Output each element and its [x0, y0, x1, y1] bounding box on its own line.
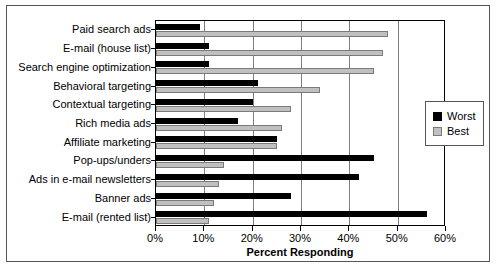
axis-tick-label: 40%	[325, 232, 371, 244]
axis-tick-label: 50%	[374, 232, 420, 244]
legend-label: Best	[447, 125, 469, 137]
bar-group	[156, 171, 444, 190]
axis-tick	[155, 226, 156, 231]
bar-best	[156, 50, 383, 56]
bar-group	[156, 190, 444, 209]
bar-group	[156, 58, 444, 77]
axis-tick	[203, 226, 204, 231]
axis-tick	[348, 226, 349, 231]
bar-best	[156, 125, 282, 131]
axis-tick-label: 30%	[277, 232, 323, 244]
bar-group	[156, 77, 444, 96]
black-square-swatch	[433, 112, 442, 121]
bar-worst	[156, 80, 258, 86]
bar-worst	[156, 61, 209, 67]
bar-group	[156, 40, 444, 59]
category-label: Paid search ads	[9, 23, 151, 35]
category-label: Search engine optimization	[9, 61, 151, 73]
axis-tick-label: 10%	[180, 232, 226, 244]
bar-group	[156, 133, 444, 152]
legend-label: Worst	[447, 110, 476, 122]
category-label: Banner ads	[9, 192, 151, 204]
bar-best	[156, 181, 219, 187]
bar-worst	[156, 99, 253, 105]
bar-worst	[156, 174, 359, 180]
category-label: E-mail (rented list)	[9, 211, 151, 223]
axis-tick-label: 0%	[132, 232, 178, 244]
category-label: Contextual targeting	[9, 98, 151, 110]
bar-best	[156, 87, 320, 93]
bar-worst	[156, 43, 209, 49]
bar-group	[156, 96, 444, 115]
axis-tick	[300, 226, 301, 231]
plot-area	[155, 20, 445, 226]
chart-container: Paid search adsE-mail (house list)Search…	[6, 5, 490, 262]
chart-legend: WorstBest	[425, 101, 484, 146]
bar-best	[156, 162, 224, 168]
bar-worst	[156, 211, 427, 217]
bar-group	[156, 208, 444, 227]
bar-rows	[156, 21, 444, 225]
axis-tick-label: 20%	[229, 232, 275, 244]
legend-item: Best	[433, 125, 476, 137]
bar-best	[156, 218, 209, 224]
axis-title: Percent Responding	[155, 246, 445, 258]
bar-group	[156, 152, 444, 171]
bar-best	[156, 68, 374, 74]
axis-tick	[445, 226, 446, 231]
gray-square-swatch	[433, 127, 442, 136]
bar-worst	[156, 155, 374, 161]
bar-worst	[156, 118, 238, 124]
bar-best	[156, 31, 388, 37]
category-label: Rich media ads	[9, 117, 151, 129]
axis-tick	[397, 226, 398, 231]
bar-worst	[156, 24, 200, 30]
bar-best	[156, 106, 291, 112]
bar-worst	[156, 136, 277, 142]
category-label: Pop-ups/unders	[9, 154, 151, 166]
bar-group	[156, 115, 444, 134]
bar-group	[156, 21, 444, 40]
category-label: E-mail (house list)	[9, 42, 151, 54]
category-axis-labels: Paid search adsE-mail (house list)Search…	[7, 20, 151, 226]
bar-best	[156, 143, 277, 149]
axis-tick-label: 60%	[422, 232, 468, 244]
bar-best	[156, 200, 214, 206]
category-label: Affiliate marketing	[9, 136, 151, 148]
legend-item: Worst	[433, 110, 476, 122]
bar-worst	[156, 193, 291, 199]
category-label: Ads in e-mail newsletters	[9, 173, 151, 185]
category-label: Behavioral targeting	[9, 80, 151, 92]
axis-tick	[252, 226, 253, 231]
